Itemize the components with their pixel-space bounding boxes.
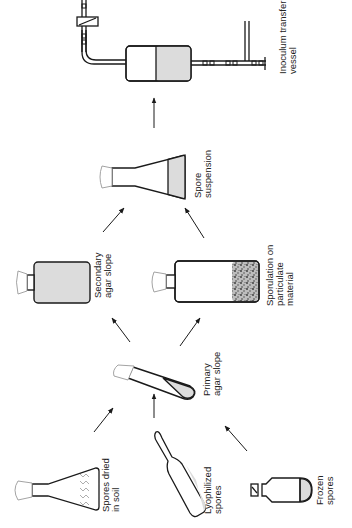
frozen-spores-vial <box>251 478 312 502</box>
label-line: in soil <box>111 458 121 512</box>
arrow-frozen-to-primary <box>225 426 247 451</box>
label-line: spores <box>213 467 223 514</box>
label-line: spores <box>325 475 335 505</box>
label-line: material <box>285 245 295 306</box>
inoculum-transfer-vessel <box>77 0 266 81</box>
label-secondary-agar-slope: Secondary agar slope <box>93 253 113 298</box>
label-line: vessel <box>288 1 298 74</box>
label-lyophilized-spores: Lyophilized spores <box>203 467 223 514</box>
label-spores-dried-in-soil: Spores dried in soil <box>101 458 121 512</box>
label-line: agar slope <box>103 253 113 298</box>
label-inoculum-transfer-vessel: Inoculum transfer vessel <box>278 1 298 74</box>
arrow-sporulation-to-suspension <box>185 208 204 238</box>
label-frozen-spores: Frozen spores <box>315 475 335 505</box>
sporulation-bottle <box>152 261 259 302</box>
label-line: suspension <box>203 150 213 198</box>
label-line: agar slope <box>212 352 222 396</box>
soil-spores-flask <box>15 468 99 510</box>
arrow-primary-to-sporulation <box>180 318 200 346</box>
inoculum-development-diagram <box>0 0 352 528</box>
arrow-secondary-to-suspension <box>103 208 124 232</box>
arrow-primary-to-secondary <box>112 318 130 342</box>
label-spore-suspension: Spore suspension <box>193 150 213 198</box>
spore-suspension-flask <box>100 155 185 199</box>
secondary-agar-slope-bottle <box>17 262 91 303</box>
arrow-soil-to-primary <box>94 408 113 432</box>
lyophilized-ampoule <box>155 432 206 517</box>
label-sporulation: Sporulation on particulate material <box>265 245 295 306</box>
label-primary-agar-slope: Primary agar slope <box>202 352 222 396</box>
